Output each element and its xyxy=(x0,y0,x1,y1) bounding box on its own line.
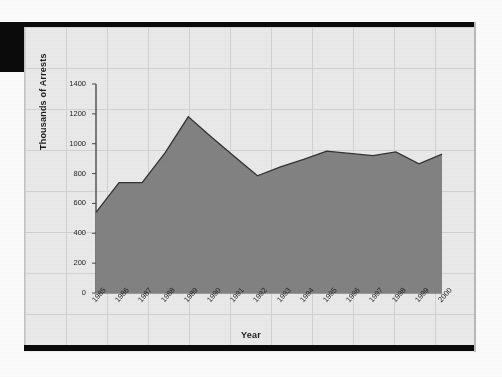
y-tick-label: 0 xyxy=(52,288,86,297)
y-axis-title: Thousands of Arrests xyxy=(38,53,48,150)
y-tick-label: 1000 xyxy=(52,139,86,148)
area-chart: Thousands of Arrests Year 02004006008001… xyxy=(0,0,502,377)
y-tick-label: 200 xyxy=(52,258,86,267)
area-series-fill xyxy=(96,117,442,293)
y-tick-label: 600 xyxy=(52,198,86,207)
y-tick-label: 1200 xyxy=(52,109,86,118)
y-tick-label: 800 xyxy=(52,169,86,178)
chart-canvas xyxy=(0,0,502,377)
y-tick-label: 1400 xyxy=(52,79,86,88)
x-axis-title: Year xyxy=(0,330,502,340)
y-tick-label: 400 xyxy=(52,228,86,237)
